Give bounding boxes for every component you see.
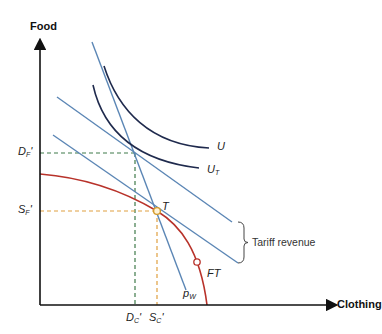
sc-label: SC' <box>149 311 164 324</box>
ut-label: UT <box>207 163 219 176</box>
world-price-line <box>92 42 186 290</box>
dc-label: DC' <box>126 311 141 324</box>
sf-label: SF' <box>18 203 32 216</box>
ppf-curve <box>40 174 207 305</box>
free-trade-point <box>194 259 200 265</box>
production-value-line <box>53 135 238 263</box>
tariff-revenue-label: Tariff revenue <box>252 236 315 248</box>
tariff-production-point <box>154 208 161 215</box>
x-axis-label: Clothing <box>337 298 382 310</box>
df-label: DF' <box>18 145 32 158</box>
tariff-revenue-brace <box>238 222 248 263</box>
pw-label: pW <box>183 287 196 300</box>
u-label: U <box>217 140 225 152</box>
ft-label: FT <box>207 267 220 279</box>
y-axis-label: Food <box>30 20 57 32</box>
t-point-label: T <box>162 200 169 212</box>
supply-guides <box>40 211 157 305</box>
